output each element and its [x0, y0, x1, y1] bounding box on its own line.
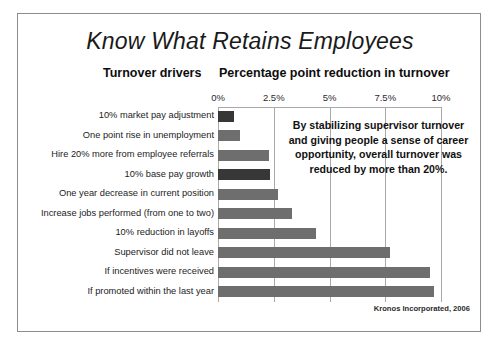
bar-category-label: One year decrease in current position [59, 188, 214, 198]
bar-row: Supervisor did not leave [18, 244, 482, 264]
bar-category-label: Supervisor did not leave [114, 247, 214, 257]
bar [218, 169, 270, 180]
bar-category-label: 10% base pay growth [125, 169, 214, 179]
source-credit: Kronos Incorporated, 2006 [18, 304, 470, 313]
bar-category-label: Hire 20% more from employee referrals [51, 149, 214, 159]
bar-category-label: Increase jobs performed (from one to two… [41, 208, 214, 218]
bar [218, 208, 292, 219]
x-axis-tick-0: 0% [211, 92, 225, 103]
bar-category-label: One point rise in unemployment [83, 130, 214, 140]
bar-category-label: 10% reduction in layoffs [115, 227, 214, 237]
bar-row: If promoted within the last year [18, 283, 482, 303]
bar-row: If incentives were received [18, 263, 482, 283]
bar-row: 10% reduction in layoffs [18, 224, 482, 244]
bar-row: Increase jobs performed (from one to two… [18, 205, 482, 225]
bar [218, 286, 434, 297]
x-axis-tick-1: 2.5% [263, 92, 285, 103]
page-title: Know What Retains Employees [18, 28, 482, 55]
column-heading-turnover-drivers: Turnover drivers [103, 66, 201, 80]
bar [218, 189, 278, 200]
bar [218, 247, 390, 258]
bar-category-label: 10% market pay adjustment [99, 110, 214, 120]
bar [218, 150, 269, 161]
bar-category-label: If promoted within the last year [87, 286, 214, 296]
bar-chart: 0%2.5%5%7.5%10% 10% market pay adjustmen… [18, 92, 482, 317]
bar-category-label: If incentives were received [104, 266, 214, 276]
column-heading-percentage-reduction: Percentage point reduction in turnover [219, 66, 450, 80]
bar [218, 130, 240, 141]
x-axis-tick-labels: 0%2.5%5%7.5%10% [18, 92, 482, 106]
bar [218, 111, 234, 122]
callout-annotation: By stabilizing supervisor turnover and g… [286, 118, 471, 176]
bar-row: One year decrease in current position [18, 185, 482, 205]
slide-frame: Know What Retains Employees Turnover dri… [17, 13, 481, 332]
x-axis-tick-3: 7.5% [374, 92, 396, 103]
x-axis-tick-2: 5% [323, 92, 337, 103]
column-headings: Turnover drivers Percentage point reduct… [18, 66, 482, 82]
x-axis-tick-4: 10% [431, 92, 450, 103]
bar [218, 267, 430, 278]
bar [218, 228, 316, 239]
